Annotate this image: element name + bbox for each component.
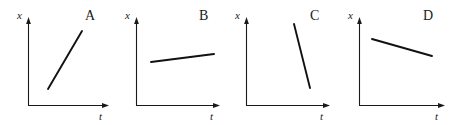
panel-c-x-axis-label: t [320, 110, 324, 122]
panel-a-letter-label: A [85, 8, 96, 23]
panel-d-data-line [372, 39, 432, 56]
panel-c-data-line [294, 24, 310, 88]
four-graph-figure: x t A x t B x t C [0, 0, 469, 125]
panel-a-y-axis-arrowhead [26, 17, 31, 24]
panel-b-x-axis-label: t [210, 110, 214, 122]
panel-d-letter-label: D [423, 8, 433, 23]
panel-a-data-line [48, 31, 82, 89]
panel-c-letter-label: C [310, 8, 319, 23]
panel-a-x-axis-label: t [99, 110, 103, 122]
figure-canvas: x t A x t B x t C [0, 0, 469, 125]
panel-c-y-axis-label: x [234, 9, 240, 21]
panel-b-x-axis-arrowhead [213, 103, 220, 108]
panel-c: x t C [234, 8, 330, 122]
panel-a: x t A [16, 8, 109, 122]
panel-b-data-line [151, 54, 214, 62]
panel-a-y-axis-label: x [16, 9, 22, 21]
panel-d-y-axis-label: x [347, 9, 353, 21]
panel-b-letter-label: B [199, 8, 208, 23]
panel-b: x t B [124, 8, 220, 122]
panel-c-y-axis-arrowhead [244, 17, 249, 24]
panel-a-x-axis-arrowhead [102, 103, 109, 108]
panel-d-x-axis-label: t [435, 110, 439, 122]
panel-d-x-axis-arrowhead [438, 103, 445, 108]
panel-c-x-axis-arrowhead [323, 103, 330, 108]
panel-d-y-axis-arrowhead [357, 17, 362, 24]
panel-b-y-axis-arrowhead [134, 17, 139, 24]
panel-b-y-axis-label: x [124, 9, 130, 21]
panel-d: x t D [347, 8, 445, 122]
